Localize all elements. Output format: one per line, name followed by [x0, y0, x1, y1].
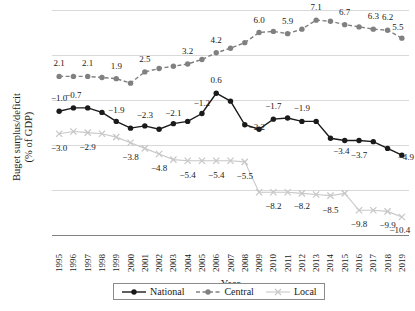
value-label-national-2006: 0.6	[211, 75, 222, 85]
marker-central-2002	[156, 66, 161, 71]
marker-central-2003	[171, 64, 176, 69]
marker-local-2019	[399, 214, 405, 220]
marker-central-2001	[142, 69, 147, 74]
value-label-national-2001: −2.3	[137, 110, 153, 120]
marker-local-2001	[142, 145, 148, 151]
series-line-central	[59, 20, 402, 83]
value-label-national-2005: −1.2	[194, 98, 210, 108]
value-label-national-2016: −3.7	[351, 150, 367, 160]
marker-central-2011	[285, 31, 290, 36]
value-label-central-2019: 5.5	[392, 22, 403, 32]
marker-local-2000	[127, 140, 133, 146]
x-axis-tick-2012: 2012	[297, 238, 307, 272]
legend-label-national: National	[150, 286, 184, 297]
value-label-local-2019: −10.4	[389, 225, 410, 235]
value-label-local-2016: −9.8	[351, 219, 367, 229]
value-label-local-2008: −5.5	[237, 171, 253, 181]
value-label-national-1999: −1.9	[108, 105, 124, 115]
marker-central-2013	[313, 17, 318, 22]
x-axis-tick-1996: 1996	[68, 238, 78, 272]
legend-swatch-central	[195, 287, 221, 297]
marker-local-2002	[156, 151, 162, 157]
marker-central-2018	[385, 28, 390, 33]
marker-central-2005	[199, 57, 204, 62]
value-label-central-2013: 7.1	[311, 2, 322, 12]
x-axis-tick-2009: 2009	[254, 238, 264, 272]
legend-item-central[interactable]: Central	[195, 286, 253, 297]
x-axis-tick-2005: 2005	[197, 238, 207, 272]
value-label-local-1997: −2.9	[80, 142, 96, 152]
x-axis-tick-2010: 2010	[268, 238, 278, 272]
marker-central-2014	[328, 19, 333, 24]
value-label-local-2012: −8.2	[294, 201, 310, 211]
marker-central-2010	[271, 29, 276, 34]
x-axis-tick-2013: 2013	[311, 238, 321, 272]
gridline--12	[52, 235, 409, 236]
value-label-national-2008: −2.2	[249, 122, 265, 132]
value-label-central-2006: 4.2	[211, 35, 222, 45]
marker-national-2007	[228, 98, 233, 103]
value-label-central-2018: 6.2	[382, 12, 393, 22]
value-label-national-2010: −1.7	[265, 101, 281, 111]
marker-national-2001	[142, 123, 147, 128]
marker-central-2016	[356, 24, 361, 29]
series-layer	[52, 10, 409, 235]
x-axis-tick-2000: 2000	[126, 238, 136, 272]
value-label-national-2014: −3.4	[333, 146, 349, 156]
marker-national-2006	[214, 91, 219, 96]
marker-national-2015	[342, 138, 347, 143]
budget-balance-line-chart: Buget surplus/deficit (% of GDP) 840−4−8…	[0, 0, 415, 311]
marker-central-1997	[85, 74, 90, 79]
marker-national-2017	[371, 139, 376, 144]
marker-national-2016	[356, 138, 361, 143]
marker-national-2004	[185, 119, 190, 124]
value-label-national-2019: −4.9	[398, 152, 414, 162]
x-axis-tick-1998: 1998	[97, 238, 107, 272]
marker-central-2004	[185, 61, 190, 66]
value-label-local-2004: −5.4	[179, 170, 195, 180]
legend-item-national[interactable]: National	[121, 286, 184, 297]
marker-national-2011	[285, 115, 290, 120]
series-national	[56, 91, 404, 158]
marker-national-1996	[71, 105, 76, 110]
value-label-local-1995: −3.0	[51, 143, 67, 153]
x-axis-tick-2016: 2016	[354, 238, 364, 272]
marker-national-2002	[156, 127, 161, 132]
marker-national-1999	[114, 119, 119, 124]
marker-central-2000	[128, 80, 133, 85]
marker-central-2008	[242, 40, 247, 45]
marker-central-2012	[299, 26, 304, 31]
legend-swatch-national	[121, 287, 147, 297]
y-axis-title: Buget surplus/deficit (% of GDP)	[11, 52, 35, 222]
series-central	[56, 17, 404, 85]
marker-national-2000	[128, 125, 133, 130]
value-label-central-1995: 2.1	[54, 58, 65, 68]
x-axis-tick-2001: 2001	[140, 238, 150, 272]
value-label-central-1999: 1.9	[111, 61, 122, 71]
value-label-national-2012: −1.9	[294, 103, 310, 113]
marker-central-1998	[99, 75, 104, 80]
marker-national-2008	[242, 122, 247, 127]
x-axis-tick-2011: 2011	[283, 238, 293, 272]
marker-central-1999	[114, 76, 119, 81]
legend-swatch-local	[265, 287, 291, 297]
marker-national-2005	[199, 111, 204, 116]
legend-item-local[interactable]: Local	[265, 286, 317, 297]
value-label-local-2010: −8.2	[265, 201, 281, 211]
value-label-national-2003: −2.1	[165, 108, 181, 118]
value-label-national-1996: −0.7	[65, 90, 81, 100]
plot-area: 840−4−8−12 −1.0−0.7−1.9−2.3−2.1−1.20.6−2…	[52, 10, 409, 235]
x-axis-tick-1995: 1995	[54, 238, 64, 272]
y-axis-title-line2: (% of GDP)	[23, 52, 35, 222]
marker-central-2019	[399, 35, 404, 40]
value-label-local-2002: −4.8	[151, 163, 167, 173]
series-line-local	[59, 132, 402, 218]
marker-central-2017	[371, 26, 376, 31]
x-axis-tick-2004: 2004	[183, 238, 193, 272]
x-axis-tick-2017: 2017	[368, 238, 378, 272]
x-axis-tick-2007: 2007	[226, 238, 236, 272]
x-axis-tick-2019: 2019	[397, 238, 407, 272]
x-axis-tick-2002: 2002	[154, 238, 164, 272]
marker-central-2006	[214, 50, 219, 55]
value-label-local-2006: −5.4	[208, 170, 224, 180]
